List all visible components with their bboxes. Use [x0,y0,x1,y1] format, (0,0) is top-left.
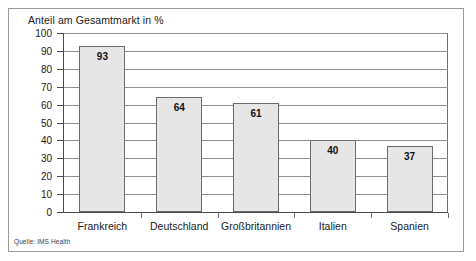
y-axis-tick-label: 30 [22,153,52,164]
bar-value-label: 40 [311,145,355,156]
bar: 37 [387,146,433,212]
x-axis-category-label: Spanien [390,220,429,232]
bar-value-label: 37 [388,151,432,162]
x-axis-category-label: Deutschland [150,220,208,232]
y-axis-tick-mark [57,123,63,124]
bar-value-label: 61 [234,108,278,119]
y-axis-tick-mark [57,158,63,159]
bar: 64 [156,97,202,212]
x-axis-tick-mark [371,213,372,218]
y-axis-tick-mark [57,176,63,177]
y-axis-tick-label: 70 [22,81,52,92]
bar-value-label: 93 [80,51,124,62]
x-axis-tick-mark [294,213,295,218]
y-axis-tick-mark [57,140,63,141]
y-axis-tick-mark [57,87,63,88]
x-axis-tick-mark [218,213,219,218]
x-axis-tick-mark [448,213,449,218]
y-axis-tick-mark [57,51,63,52]
x-axis-category-label: Großbritannien [221,220,291,232]
gridline [64,212,448,213]
bar: 93 [79,46,125,212]
bar-value-label: 64 [157,102,201,113]
y-axis-tick-label: 20 [22,171,52,182]
bar: 40 [310,140,356,212]
x-axis-category-label: Frankreich [78,220,128,232]
gridline [64,33,448,34]
chart-figure: Anteil am Gesamtmarkt in % 1009080706050… [0,0,476,261]
y-axis-tick-mark [57,194,63,195]
source-note: Quelle: IMS Health [14,238,70,245]
y-axis-tick-label: 10 [22,189,52,200]
y-axis-tick-label: 90 [22,45,52,56]
y-axis-tick-mark [57,33,63,34]
y-axis-tick-label: 0 [22,207,52,218]
y-axis-tick-label: 60 [22,99,52,110]
y-axis-tick-label: 80 [22,63,52,74]
bar: 61 [233,103,279,212]
y-axis-tick-label: 50 [22,117,52,128]
x-axis-category-label: Italien [319,220,347,232]
plot-area: 9364614037 [64,33,448,212]
x-axis-tick-mark [141,213,142,218]
y-axis-tick-label: 40 [22,135,52,146]
y-axis-tick-mark [57,212,63,213]
y-axis-tick-label: 100 [22,28,52,39]
y-axis-tick-mark [57,105,63,106]
y-axis-tick-labels: 1009080706050403020100 [22,0,52,261]
y-axis-tick-mark [57,69,63,70]
